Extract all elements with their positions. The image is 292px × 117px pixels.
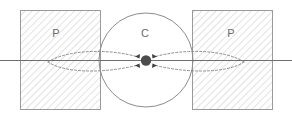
arrowhead-right-lower-icon <box>152 64 157 69</box>
figure-canvas: P C P <box>0 0 292 117</box>
arrowhead-right-upper-icon <box>152 54 157 59</box>
left-region-label: P <box>52 27 59 39</box>
arrowhead-left-lower-icon <box>135 64 140 69</box>
center-region-label: C <box>141 27 149 39</box>
right-region-label: P <box>227 27 234 39</box>
diagram-svg: P C P <box>0 0 292 117</box>
arrowhead-left-upper-icon <box>135 54 140 59</box>
center-point-dot <box>141 55 151 65</box>
